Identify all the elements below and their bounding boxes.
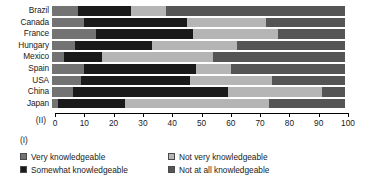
axis-tick-label: 30 — [138, 118, 147, 128]
axis-tick-label: 50 — [197, 118, 206, 128]
axis-tick-label: 70 — [255, 118, 264, 128]
bar-segment — [272, 76, 345, 86]
stacked-bar — [52, 98, 345, 110]
category-label: Hungary — [0, 40, 52, 52]
axis-tick — [55, 113, 56, 117]
category-label: France — [0, 28, 52, 40]
axis-tick — [260, 113, 261, 117]
stacked-bar — [52, 63, 345, 75]
legend-swatch-icon — [20, 166, 27, 173]
bar-segment — [64, 52, 102, 62]
bar-segment — [213, 52, 345, 62]
bar-segment — [52, 87, 73, 97]
bar-segment — [237, 41, 345, 51]
chart-row: Japan — [0, 98, 372, 110]
category-label: Brazil — [0, 5, 52, 17]
bar-segment — [322, 87, 345, 97]
stacked-bar — [52, 5, 345, 17]
chart-row: USA — [0, 75, 372, 87]
axis-tick — [143, 113, 144, 117]
category-label: Japan — [0, 98, 52, 110]
stacked-bar — [52, 17, 345, 29]
axis-tick — [114, 113, 115, 117]
bar-segment — [52, 29, 96, 39]
legend-swatch-icon — [20, 153, 27, 160]
legend-label: Very knowledgeable — [31, 152, 105, 162]
stacked-bar — [52, 86, 345, 98]
bar-segment — [58, 99, 125, 109]
axis-tick — [231, 113, 232, 117]
legend-item-not-at-all-knowledgeable: Not at all knowledgeable — [168, 163, 360, 176]
bar-segment — [166, 6, 345, 16]
legend-swatch-icon — [168, 153, 175, 160]
axis-tick-label: 40 — [168, 118, 177, 128]
axis-tick-label: 100 — [341, 118, 355, 128]
bar-segment — [102, 52, 213, 62]
axis-tick — [202, 113, 203, 117]
axis-tick-label: 10 — [80, 118, 89, 128]
legend-note: (I) — [20, 135, 28, 145]
legend-swatch-icon — [168, 166, 175, 173]
axis-tick — [348, 113, 349, 117]
axis-tick — [319, 113, 320, 117]
axis-tick — [84, 113, 85, 117]
legend-item-somewhat-knowledgeable: Somewhat knowledgeable — [20, 163, 168, 176]
bar-segment — [52, 64, 84, 74]
stacked-bar — [52, 75, 345, 87]
axis-tick-label: 90 — [314, 118, 323, 128]
bar-segment — [52, 18, 84, 28]
bar-segment — [52, 76, 81, 86]
bar-segment — [52, 52, 64, 62]
category-label: China — [0, 86, 52, 98]
stacked-bar — [52, 51, 345, 63]
bar-segment — [84, 18, 187, 28]
bar-segment — [228, 87, 322, 97]
chart-row: Mexico — [0, 51, 372, 63]
bar-segment — [266, 18, 345, 28]
bar-segment — [52, 41, 75, 51]
bar-segment — [96, 29, 193, 39]
category-label: Canada — [0, 17, 52, 29]
chart-row: Brazil — [0, 5, 372, 17]
axis-tick-label: 80 — [285, 118, 294, 128]
chart-row: Hungary — [0, 40, 372, 52]
bar-segment — [75, 41, 151, 51]
chart-row: Canada — [0, 17, 372, 29]
bar-segment — [269, 99, 345, 109]
stacked-bar — [52, 40, 345, 52]
bar-segment — [52, 6, 78, 16]
bar-segment — [152, 41, 237, 51]
bar-segment — [187, 18, 266, 28]
legend: Very knowledgeable Not very knowledgeabl… — [20, 150, 360, 176]
legend-item-very-knowledgeable: Very knowledgeable — [20, 150, 168, 163]
stacked-bar — [52, 28, 345, 40]
category-label: USA — [0, 75, 52, 87]
bar-segment — [78, 6, 131, 16]
category-label: Mexico — [0, 51, 52, 63]
bar-segment — [81, 76, 189, 86]
axis-tick-label: 0 — [53, 118, 58, 128]
bar-segment — [84, 64, 195, 74]
chart-row: China — [0, 86, 372, 98]
axis-tick — [289, 113, 290, 117]
bar-segment — [278, 29, 345, 39]
bar-segment — [131, 6, 166, 16]
legend-label: Somewhat knowledgeable — [31, 165, 128, 175]
bar-segment — [125, 99, 269, 109]
category-label: Spain — [0, 63, 52, 75]
chart-row: France — [0, 28, 372, 40]
legend-label: Not at all knowledgeable — [179, 165, 269, 175]
bar-segment — [196, 64, 231, 74]
axis-tick — [172, 113, 173, 117]
plot-area: BrazilCanadaFranceHungaryMexicoSpainUSAC… — [0, 5, 372, 113]
axis-tick-label: 60 — [226, 118, 235, 128]
bar-segment — [231, 64, 345, 74]
stacked-bar-chart: BrazilCanadaFranceHungaryMexicoSpainUSAC… — [0, 0, 372, 181]
bar-segment — [190, 76, 272, 86]
axis-corner-label: (II) — [0, 115, 50, 125]
axis-tick-label: 20 — [109, 118, 118, 128]
legend-label: Not very knowledgeable — [179, 152, 268, 162]
chart-row: Spain — [0, 63, 372, 75]
bar-segment — [73, 87, 228, 97]
bar-segment — [193, 29, 278, 39]
